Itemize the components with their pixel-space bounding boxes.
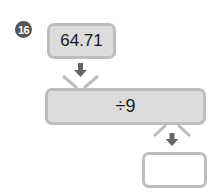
operation-box: ÷9 <box>45 88 206 125</box>
operation-label: ÷9 <box>116 96 136 117</box>
start-value-box: 64.71 <box>47 23 116 59</box>
problem-number-badge: 16 <box>15 21 32 38</box>
answer-box[interactable] <box>142 152 207 188</box>
down-arrow-icon <box>60 60 102 90</box>
start-value: 64.71 <box>60 31 103 51</box>
down-arrow-icon <box>151 124 193 152</box>
